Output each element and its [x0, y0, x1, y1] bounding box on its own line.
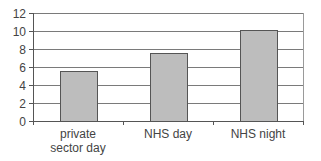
bars [61, 31, 278, 122]
y-tick-label: 10 [13, 25, 27, 39]
x-axis-category-labels: privatesector dayNHS dayNHS night [50, 127, 286, 155]
x-category-label: NHS night [231, 127, 286, 141]
y-tick-label: 4 [19, 79, 26, 93]
y-tick-label: 12 [13, 7, 27, 21]
y-tick-label: 6 [19, 61, 26, 75]
y-tick-label: 0 [19, 115, 26, 129]
y-axis-tick-labels: 024681012 [13, 7, 27, 129]
y-tick-label: 2 [19, 97, 26, 111]
bar-private-sector-day [61, 72, 98, 122]
x-category-label: NHS day [144, 127, 192, 141]
bar-chart: 024681012 privatesector dayNHS dayNHS ni… [0, 0, 321, 161]
bar-nhs-night [241, 31, 278, 122]
bar-nhs-day [151, 54, 188, 122]
y-tick-label: 8 [19, 43, 26, 57]
x-category-label: privatesector day [50, 127, 105, 155]
